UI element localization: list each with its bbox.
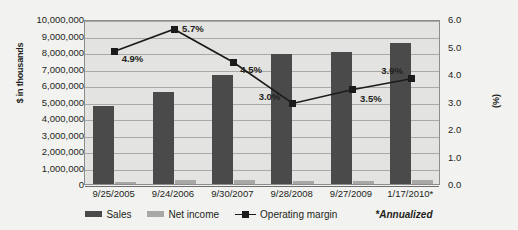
y-axis-left-tick-label: 10,000,000	[36, 15, 84, 25]
plot-area: 4.9%5.7%4.5%3.0%3.5%3.9%	[84, 20, 440, 185]
data-point-label: 4.5%	[240, 64, 262, 75]
line-series-layer: 4.9%5.7%4.5%3.0%3.5%3.9%	[85, 21, 439, 184]
data-point-marker	[171, 26, 178, 33]
y-axis-left-tick-label: 2,000,000	[42, 147, 84, 157]
y-axis-right-tick-label: 5.0	[448, 43, 461, 53]
legend-item-label: Net income	[168, 209, 219, 220]
y-axis-left-tick-label: 4,000,000	[42, 114, 84, 124]
y-axis-left-tick-label: 3,000,000	[42, 131, 84, 141]
gridline	[85, 186, 439, 187]
x-axis-tick-label: 9/28/2008	[262, 188, 321, 199]
annualized-footnote: *Annualized	[375, 209, 432, 220]
y-axis-right-tick-label: 2.0	[448, 125, 461, 135]
operating-margin-line	[85, 21, 441, 186]
y-axis-left-tick-label: 9,000,000	[42, 32, 84, 42]
y-axis-left-tick-label: 8,000,000	[42, 48, 84, 58]
y-axis-right-tick-label: 6.0	[448, 15, 461, 25]
chart-legend: SalesNet incomeOperating margin*Annualiz…	[0, 205, 518, 223]
y-axis-right-tick-label: 0.0	[448, 180, 461, 190]
y-axis-left-tick-label: 6,000,000	[42, 81, 84, 91]
y-axis-left-tick-label: 1,000,000	[42, 164, 84, 174]
legend-item[interactable]: Net income	[147, 209, 219, 220]
legend-item[interactable]: Operating margin	[235, 209, 337, 220]
x-axis-tick-label: 1/17/2010*	[381, 188, 440, 199]
data-point-marker	[289, 100, 296, 107]
data-point-label: 3.0%	[259, 91, 281, 102]
legend-item-label: Sales	[106, 209, 131, 220]
data-point-marker	[408, 75, 415, 82]
y-axis-right-title: (%)	[491, 81, 501, 121]
data-point-label: 5.7%	[182, 23, 204, 34]
data-point-marker	[349, 86, 356, 93]
x-axis-tick-label: 9/27/2009	[321, 188, 380, 199]
x-axis-tick-label: 9/25/2005	[84, 188, 143, 199]
data-point-label: 3.5%	[360, 93, 382, 104]
y-axis-right-tick-label: 3.0	[448, 98, 461, 108]
y-axis-left-tick-label: 5,000,000	[42, 98, 84, 108]
legend-item-label: Operating margin	[260, 209, 337, 220]
legend-line-marker-icon	[235, 210, 256, 218]
data-point-label: 3.9%	[381, 65, 403, 76]
x-axis-tick-label: 9/30/2007	[203, 188, 262, 199]
legend-item[interactable]: Sales	[85, 209, 131, 220]
legend-bar-swatch-icon	[147, 211, 164, 217]
y-axis-left-title: $ in thousands	[15, 13, 25, 133]
y-axis-right-tick-label: 4.0	[448, 70, 461, 80]
x-axis-tick-label: 9/24/2006	[143, 188, 202, 199]
y-axis-right-tick-label: 1.0	[448, 153, 461, 163]
data-point-label: 4.9%	[122, 53, 144, 64]
y-axis-left-tick-label: 7,000,000	[42, 65, 84, 75]
operating-margin-chart: $ in thousands (%) 01,000,0002,000,0003,…	[0, 0, 518, 230]
data-point-marker	[111, 48, 118, 55]
legend-bar-swatch-icon	[85, 211, 102, 217]
data-point-marker	[230, 59, 237, 66]
